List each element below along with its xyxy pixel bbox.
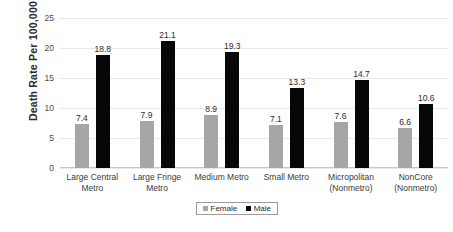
bar-wrapper: 8.9	[204, 18, 218, 168]
bar-value-label: 7.6	[335, 111, 347, 121]
x-axis-category-labels: Large CentralMetroLarge FringeMetroMediu…	[60, 172, 448, 194]
bar-female[interactable]	[398, 128, 412, 168]
bar-male[interactable]	[96, 55, 110, 168]
bar-group: 7.614.7	[319, 18, 384, 168]
bar-wrapper: 19.3	[225, 18, 239, 168]
bar-value-label: 14.7	[353, 69, 370, 79]
bar-wrapper: 7.9	[140, 18, 154, 168]
bar-group: 7.113.3	[254, 18, 319, 168]
bar-female[interactable]	[204, 115, 218, 168]
legend-entry-female[interactable]: Female	[203, 204, 237, 213]
bar-value-label: 8.9	[205, 104, 217, 114]
y-axis-tick-label: 10	[24, 103, 54, 113]
bar-wrapper: 7.6	[334, 18, 348, 168]
bar-value-label: 19.3	[224, 41, 241, 51]
bar-wrapper: 6.6	[398, 18, 412, 168]
bar-group: 7.921.1	[125, 18, 190, 168]
bar-male[interactable]	[419, 104, 433, 168]
bar-chart: Death Rate Per 100,000 0510152025 7.418.…	[0, 0, 453, 232]
gridline	[60, 168, 448, 169]
bar-group: 7.418.8	[60, 18, 125, 168]
legend-swatch-male	[246, 206, 251, 211]
x-axis-category-label: Large FringeMetro	[125, 172, 190, 194]
bar-wrapper: 7.4	[75, 18, 89, 168]
bar-female[interactable]	[269, 125, 283, 168]
y-axis-tick-label: 0	[24, 163, 54, 173]
bar-value-label: 7.4	[76, 113, 88, 123]
bar-group: 8.919.3	[189, 18, 254, 168]
bar-value-label: 13.3	[289, 77, 306, 87]
x-axis-category-label: Large CentralMetro	[60, 172, 125, 194]
bar-male[interactable]	[355, 80, 369, 168]
legend-label: Male	[254, 204, 271, 213]
y-axis-tick-label: 25	[24, 13, 54, 23]
y-axis-tick-label: 5	[24, 133, 54, 143]
bar-wrapper: 10.6	[419, 18, 433, 168]
bar-wrapper: 21.1	[161, 18, 175, 168]
x-axis-category-label: Small Metro	[254, 172, 319, 194]
bar-female[interactable]	[75, 124, 89, 168]
legend-label: Female	[211, 204, 238, 213]
legend-entry-male[interactable]: Male	[246, 204, 271, 213]
bar-value-label: 21.1	[159, 30, 176, 40]
y-axis-tick-labels: 0510152025	[22, 18, 54, 168]
bar-male[interactable]	[161, 41, 175, 168]
x-axis-category-label: Medium Metro	[189, 172, 254, 194]
bar-wrapper: 7.1	[269, 18, 283, 168]
bar-value-label: 18.8	[95, 44, 112, 54]
bar-value-label: 7.9	[141, 110, 153, 120]
bar-series-layer: 7.418.87.921.18.919.37.113.37.614.76.610…	[60, 18, 448, 168]
chart-legend: FemaleMale	[196, 202, 278, 215]
bar-male[interactable]	[225, 52, 239, 168]
bar-female[interactable]	[334, 122, 348, 168]
bar-value-label: 6.6	[399, 117, 411, 127]
bar-male[interactable]	[290, 88, 304, 168]
x-axis-category-label: Micropolitan(Nonmetro)	[319, 172, 384, 194]
bar-wrapper: 14.7	[355, 18, 369, 168]
y-axis-tick-label: 15	[24, 73, 54, 83]
bar-wrapper: 18.8	[96, 18, 110, 168]
x-axis-category-label: NonCore(Nonmetro)	[383, 172, 448, 194]
legend-swatch-female	[203, 206, 208, 211]
bar-group: 6.610.6	[383, 18, 448, 168]
bar-female[interactable]	[140, 121, 154, 168]
y-axis-tick-label: 20	[24, 43, 54, 53]
bar-value-label: 7.1	[270, 114, 282, 124]
bar-value-label: 10.6	[418, 93, 435, 103]
bar-wrapper: 13.3	[290, 18, 304, 168]
